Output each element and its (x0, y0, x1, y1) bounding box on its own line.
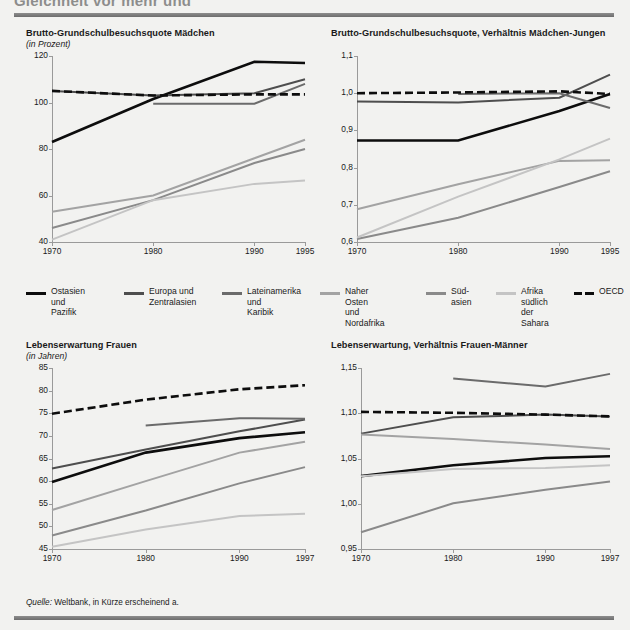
panel-title: Lebenserwartung Frauen (26, 340, 311, 350)
legend: Ostasien und PazifikEuropa und Zentralas… (26, 288, 618, 334)
series-line (357, 75, 610, 103)
series-line (52, 514, 305, 547)
panel-title: Lebenserwartung, Verhältnis Frauen-Männe… (331, 340, 616, 350)
panel-lebenserwartung-frauen: Lebenserwartung Frauen (in Jahren) 45505… (26, 340, 311, 590)
panel-brutto-grundschulbesuchsquote-maedchen: Brutto-Grundschulbesuchsquote Mädchen (i… (26, 28, 311, 278)
series-layer (26, 50, 311, 260)
bottom-divider-rule (14, 616, 614, 620)
series-layer (331, 50, 616, 260)
legend-swatch-icon (574, 292, 594, 295)
series-line (52, 149, 305, 228)
plot-area: 0,951,001,051,101,151970198019901997 (331, 362, 616, 567)
series-line (52, 62, 305, 142)
legend-label: Naher Osten und Nordafrika (345, 286, 385, 328)
legend-swatch-icon (320, 292, 340, 295)
figure-page: Gleichheit vor mehr und Brutto-Grundschu… (0, 0, 630, 630)
series-line (52, 91, 305, 96)
panel-subtitle: (in Jahren) (26, 351, 311, 361)
legend-label: Lateinamerika und Karibik (247, 286, 301, 318)
legend-label: OECD (599, 286, 624, 297)
series-layer (331, 362, 616, 567)
panel-lebenserwartung-verhaeltnis: Lebenserwartung, Verhältnis Frauen-Männe… (331, 340, 616, 590)
series-line (453, 374, 610, 387)
panel-title: Brutto-Grundschulbesuchsquote, Verhältni… (331, 28, 616, 38)
legend-label: Afrika südlich der Sahara (521, 286, 549, 328)
panel-subtitle: (in Prozent) (26, 39, 311, 49)
legend-label: Europa und Zentralasien (149, 286, 196, 307)
legend-swatch-icon (124, 292, 144, 295)
series-line (361, 482, 610, 533)
top-divider-rule (14, 13, 614, 17)
source-text: Weltbank, in Kürze erscheinend a. (52, 598, 179, 607)
source-prefix: Quelle: (26, 598, 52, 607)
plot-area: 4550556065707580851970198019901997 (26, 362, 311, 567)
source-note: Quelle: Weltbank, in Kürze erscheinend a… (26, 598, 179, 607)
panel-brutto-grundschulbesuchsquote-verhaeltnis: Brutto-Grundschulbesuchsquote, Verhältni… (331, 28, 616, 278)
series-line (52, 432, 305, 482)
legend-swatch-icon (426, 292, 446, 295)
series-line (361, 415, 610, 434)
legend-label: Ostasien und Pazifik (51, 286, 85, 318)
plot-area: 0,60,70,80,91,01,11970198019901995 (331, 50, 616, 260)
panel-title: Brutto-Grundschulbesuchsquote Mädchen (26, 28, 311, 38)
legend-swatch-icon (26, 292, 46, 295)
series-line (52, 180, 305, 239)
series-line (52, 140, 305, 212)
clipped-page-header: Gleichheit vor mehr und (14, 0, 191, 9)
series-line (52, 420, 305, 469)
series-line (357, 171, 610, 239)
legend-label: Süd- asien (451, 286, 472, 307)
legend-swatch-icon (496, 292, 516, 295)
series-line (357, 160, 610, 209)
plot-area: 4060801001201970198019901995 (26, 50, 311, 260)
series-line (357, 139, 610, 238)
series-line (52, 385, 305, 414)
legend-swatch-icon (222, 292, 242, 295)
series-line (361, 435, 610, 449)
series-layer (26, 362, 311, 567)
